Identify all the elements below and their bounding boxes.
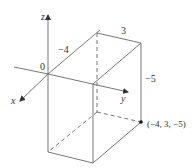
corner-point [139, 120, 143, 124]
z-extent-label: −5 [145, 74, 156, 84]
origin-label: 0 [40, 62, 45, 72]
y-axis [48, 74, 128, 92]
hidden-edge [97, 112, 141, 122]
box-diagram: z x y 0 −4 3 −5 (−4, 3, −5) [0, 0, 195, 168]
hidden-edge [48, 112, 97, 152]
z-axis-label: z [41, 12, 45, 22]
y-axis-label: y [121, 94, 125, 104]
x-axis-negative [48, 30, 100, 74]
y-extent-label: 3 [121, 26, 126, 36]
point-label: (−4, 3, −5) [147, 119, 186, 129]
x-extent-label: −4 [58, 45, 69, 55]
box-edge [97, 33, 141, 43]
x-axis [20, 74, 48, 101]
box-edge [93, 43, 141, 84]
x-axis-label: x [11, 96, 15, 106]
box-edge [48, 152, 93, 163]
box-edge [93, 122, 141, 163]
diagram-canvas [0, 0, 195, 168]
